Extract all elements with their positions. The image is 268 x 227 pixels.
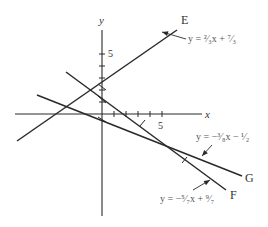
line-g-equation: y = −³⁄₈x − ¹⁄₂	[196, 131, 249, 142]
line-f-equation: y = −⁵⁄₇x + ⁹⁄₇	[160, 193, 214, 204]
line-e	[17, 30, 177, 141]
line-f-label: F	[230, 188, 237, 202]
x-axis-label: x	[204, 108, 210, 120]
line-e-label: E	[181, 13, 188, 27]
line-e-equation: y = ²⁄₃x + ⁷⁄₃	[188, 33, 236, 44]
x-tick-label-5: 5	[158, 120, 163, 131]
arrow-f	[193, 180, 210, 190]
diagram-canvas: x y 5 5 E F G	[0, 0, 268, 227]
y-axis-label: y	[98, 14, 104, 26]
line-g-label: G	[245, 171, 254, 185]
coordinate-plane: x y 5 5 E F G	[0, 0, 268, 227]
arrow-g	[202, 145, 212, 156]
y-tick-label-5: 5	[108, 48, 113, 59]
